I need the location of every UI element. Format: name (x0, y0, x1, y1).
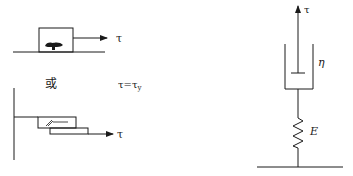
yield-condition-label: τ=τy (118, 79, 141, 92)
diagram-canvas: τ 或 τ=τy τ τ η E (0, 0, 353, 176)
middle-labels: 或 τ=τy (45, 77, 141, 92)
friction-blob-icon (45, 42, 63, 50)
sliding-plates-diagram: τ (14, 88, 123, 160)
dashpot-cylinder (285, 44, 313, 89)
elastic-modulus-label: E (309, 125, 318, 138)
viscosity-label: η (318, 56, 325, 69)
stress-label: τ (117, 128, 123, 141)
stress-label: τ (304, 4, 310, 15)
dashpot-spring-diagram: τ η E (257, 4, 343, 167)
stress-label: τ (116, 32, 122, 45)
or-label: 或 (45, 77, 57, 91)
upper-plate (38, 117, 76, 128)
yield-condition-main: τ=τ (118, 79, 138, 90)
lower-plate (50, 128, 88, 134)
yield-condition-subscript: y (136, 84, 141, 92)
block-rect (39, 28, 73, 52)
spring-icon (293, 118, 303, 148)
block-on-ground-diagram: τ (13, 28, 122, 52)
friction-symbol-icon (46, 120, 68, 126)
